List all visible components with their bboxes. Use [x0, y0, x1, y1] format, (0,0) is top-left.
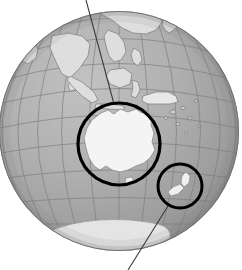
land-australia: [84, 109, 155, 172]
globe-locator-figure: [0, 0, 242, 270]
land-japan-north: [176, 4, 187, 16]
globe-illustration: [0, 0, 242, 270]
